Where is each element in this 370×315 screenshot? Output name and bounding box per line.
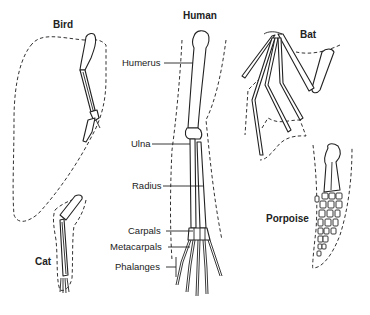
porpoise-digit-bones	[315, 193, 342, 256]
bird-digits	[83, 118, 95, 142]
human-arm-outline-left	[171, 40, 183, 260]
human-arm-drawing	[152, 31, 226, 296]
cat-humerus	[60, 195, 82, 220]
human-digits-outline	[178, 240, 222, 296]
human-label: Human	[183, 11, 217, 21]
human-arm-outline-right	[206, 40, 226, 240]
phalanges-label: Phalanges	[115, 262, 160, 272]
diagram-drawing	[0, 0, 370, 315]
human-ulna	[190, 139, 196, 228]
bat-label: Bat	[300, 30, 316, 40]
cat-label: Cat	[35, 257, 51, 267]
porpoise-flipper-drawing	[313, 144, 352, 268]
bat-wing-drawing	[242, 32, 340, 160]
bird-humerus	[80, 33, 96, 70]
human-humerus	[188, 31, 209, 128]
metacarpals-label: Metacarpals	[110, 242, 162, 252]
carpals-label: Carpals	[128, 226, 161, 236]
cat-leg-drawing	[53, 195, 86, 293]
bird-forearm-line	[83, 72, 93, 110]
bird-wing-drawing	[13, 33, 106, 221]
ulna-label: Ulna	[131, 139, 151, 149]
porpoise-label: Porpoise	[266, 214, 309, 224]
human-elbow	[185, 128, 201, 139]
humerus-label: Humerus	[122, 58, 161, 68]
human-carpals	[188, 228, 210, 240]
bird-radius-ulna	[80, 70, 95, 112]
human-radius	[197, 142, 206, 228]
bird-label: Bird	[53, 20, 73, 30]
homologous-forelimbs-diagram: Bird Human Bat Cat Porpoise Humerus Ulna…	[0, 0, 370, 315]
phalanges-leader-line	[166, 257, 176, 277]
radius-label: Radius	[132, 181, 162, 191]
bat-humerus	[312, 49, 334, 93]
